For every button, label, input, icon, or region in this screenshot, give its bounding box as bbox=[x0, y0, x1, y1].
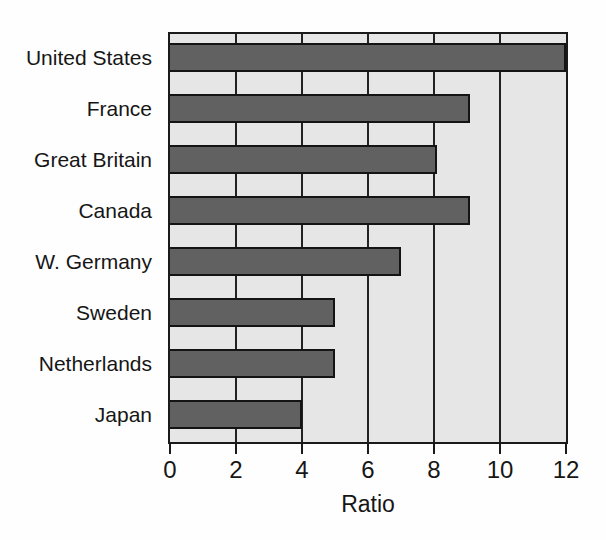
bar-w-germany bbox=[170, 247, 401, 276]
y-label-united-states: United States bbox=[0, 43, 152, 73]
y-label-france: France bbox=[0, 94, 152, 124]
ratio-bar-chart-figure: United StatesFranceGreat BritainCanadaW.… bbox=[0, 0, 606, 540]
tick-mark-0 bbox=[169, 444, 171, 454]
y-label-sweden: Sweden bbox=[0, 298, 152, 328]
bar-japan bbox=[170, 400, 302, 429]
tick-mark-10 bbox=[499, 444, 501, 454]
x-axis-title: Ratio bbox=[341, 493, 395, 516]
tick-label-6: 6 bbox=[361, 458, 374, 482]
bar-great-britain bbox=[170, 145, 437, 174]
plot-area bbox=[168, 32, 568, 444]
y-label-canada: Canada bbox=[0, 196, 152, 226]
tick-label-0: 0 bbox=[163, 458, 176, 482]
tick-label-4: 4 bbox=[295, 458, 308, 482]
tick-mark-4 bbox=[301, 444, 303, 454]
bar-sweden bbox=[170, 298, 335, 327]
tick-mark-2 bbox=[235, 444, 237, 454]
tick-mark-6 bbox=[367, 444, 369, 454]
tick-mark-12 bbox=[565, 444, 567, 454]
y-label-netherlands: Netherlands bbox=[0, 349, 152, 379]
bar-france bbox=[170, 94, 470, 123]
tick-label-2: 2 bbox=[229, 458, 242, 482]
gridline-x-10 bbox=[499, 34, 501, 442]
y-label-great-britain: Great Britain bbox=[0, 145, 152, 175]
y-label-w-germany: W. Germany bbox=[0, 247, 152, 277]
tick-label-12: 12 bbox=[553, 458, 580, 482]
bar-netherlands bbox=[170, 349, 335, 378]
tick-label-10: 10 bbox=[487, 458, 514, 482]
y-label-japan: Japan bbox=[0, 400, 152, 430]
tick-label-8: 8 bbox=[427, 458, 440, 482]
bar-canada bbox=[170, 196, 470, 225]
tick-mark-8 bbox=[433, 444, 435, 454]
bar-united-states bbox=[170, 43, 566, 72]
